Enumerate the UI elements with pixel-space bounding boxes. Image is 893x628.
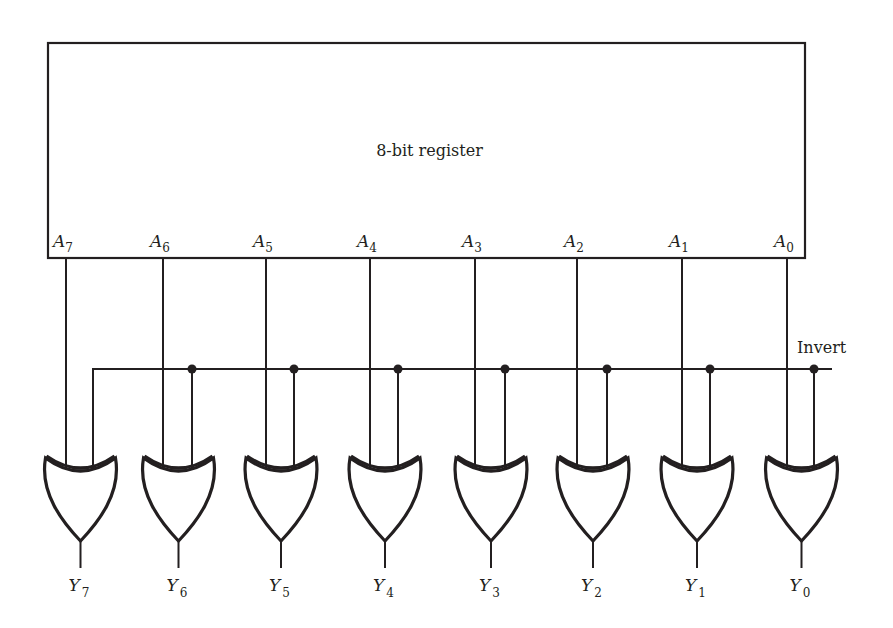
output-label-y6: Y6 [167, 575, 188, 600]
bit-slice-1: A1Y1 [661, 231, 733, 600]
xor-gate-1 [661, 458, 733, 541]
bit-slice-2: A2Y2 [557, 231, 629, 600]
input-label-a2: A2 [562, 231, 584, 255]
output-label-y3: Y3 [479, 575, 500, 600]
output-label-y0: Y0 [790, 575, 811, 600]
output-label-y1: Y1 [685, 575, 706, 600]
xor-gate-2 [557, 458, 629, 541]
circuit-diagram: 8-bit register Invert A7Y7A6Y6A5Y5A4Y4A3… [0, 0, 893, 628]
bit-slice-5: A5Y5 [245, 231, 317, 600]
input-label-a0: A0 [772, 231, 794, 255]
bit-slices: A7Y7A6Y6A5Y5A4Y4A3Y3A2Y2A1Y1A0Y0 [45, 231, 838, 600]
input-label-a5: A5 [251, 231, 273, 255]
output-label-y7: Y7 [69, 575, 90, 600]
junction-dot [188, 365, 197, 374]
output-label-y5: Y5 [269, 575, 290, 600]
input-label-a7: A7 [51, 231, 73, 255]
xor-gate-5 [245, 458, 317, 541]
bit-slice-6: A6Y6 [143, 231, 215, 600]
xor-gate-4 [349, 458, 421, 541]
bit-slice-0: A0Y0 [766, 231, 838, 600]
junction-dot [501, 365, 510, 374]
junction-dot [603, 365, 612, 374]
bit-slice-7: A7Y7 [45, 231, 117, 600]
junction-dot [290, 365, 299, 374]
bit-slice-3: A3Y3 [455, 231, 527, 600]
junction-dot [706, 365, 715, 374]
input-label-a1: A1 [667, 231, 689, 255]
xor-gate-3 [455, 458, 527, 541]
xor-gate-6 [143, 458, 215, 541]
input-label-a3: A3 [460, 231, 482, 255]
register-label: 8-bit register [376, 141, 483, 160]
output-label-y2: Y2 [581, 575, 602, 600]
xor-gate-0 [766, 458, 838, 541]
xor-gate-7 [45, 458, 117, 541]
output-label-y4: Y4 [373, 575, 394, 600]
junction-dot [810, 365, 819, 374]
input-label-a4: A4 [355, 231, 377, 255]
invert-label: Invert [797, 338, 847, 357]
bit-slice-4: A4Y4 [349, 231, 421, 600]
junction-dot [394, 365, 403, 374]
input-label-a6: A6 [148, 231, 170, 255]
